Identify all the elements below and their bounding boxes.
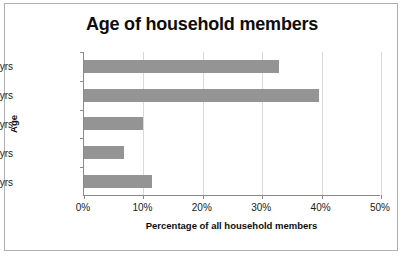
- y-axis-tick-label: 65+yrs: [0, 61, 13, 72]
- x-axis-tick-label: 0%: [76, 202, 90, 213]
- y-axis-tick: [80, 81, 84, 82]
- bar-band: [84, 110, 380, 139]
- x-axis-tick-label: 40%: [311, 202, 331, 213]
- bar-band: [84, 138, 380, 167]
- x-axis-title: Percentage of all household members: [83, 220, 380, 231]
- bar-65-yrs: [84, 60, 279, 73]
- y-axis-tick: [80, 52, 84, 53]
- x-axis-tick-label: 30%: [251, 202, 271, 213]
- y-axis-tick: [80, 110, 84, 111]
- y-axis-tick-label: 25-44yrs: [0, 119, 13, 130]
- y-axis-tick-label: 0-15 yrs: [0, 176, 13, 187]
- y-axis-tick: [80, 138, 84, 139]
- y-axis-tick-label: 16-24yrs: [0, 147, 13, 158]
- bar-band: [84, 52, 380, 81]
- x-axis-tick-label: 20%: [192, 202, 212, 213]
- gridline: [381, 52, 382, 195]
- bar-0-15-yrs: [84, 175, 152, 188]
- x-axis-tick-label: 10%: [132, 202, 152, 213]
- x-axis-tick: [381, 195, 382, 199]
- bar-25-44yrs: [84, 117, 143, 130]
- chart-frame: Age of household members Age Percentage …: [4, 3, 398, 251]
- x-axis-tick-label: 50%: [370, 202, 390, 213]
- y-axis-tick-label: 45-64yrs: [0, 90, 13, 101]
- chart-title: Age of household members: [5, 14, 399, 35]
- bar-16-24yrs: [84, 146, 124, 159]
- bar-band: [84, 167, 380, 196]
- y-axis-tick: [80, 167, 84, 168]
- plot-area: [83, 52, 380, 196]
- bar-band: [84, 81, 380, 110]
- bar-45-64yrs: [84, 89, 319, 102]
